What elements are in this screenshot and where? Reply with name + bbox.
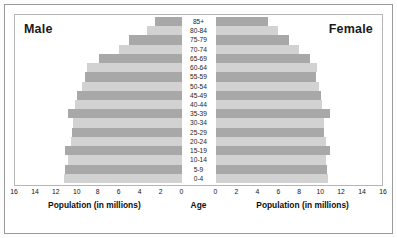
axis-captions: Population (in millions) Age Population … [14, 200, 383, 216]
male-bar [65, 165, 199, 174]
pyramid-row: 80-84 [15, 26, 382, 35]
pyramid-row: 10-14 [15, 155, 382, 164]
male-bar [72, 128, 198, 137]
x-tick-right: 14 [358, 188, 366, 195]
pyramid-row: 35-39 [15, 109, 382, 118]
x-tick-right: 2 [235, 188, 239, 195]
pyramid-row: 20-24 [15, 137, 382, 146]
pyramid-rows: 85+80-8475-7970-7465-6960-6455-5950-5445… [15, 17, 382, 183]
male-bar [73, 118, 198, 127]
x-tick-left: 14 [31, 188, 39, 195]
age-group-label: 40-44 [183, 100, 214, 109]
age-group-label: 45-49 [183, 91, 214, 100]
pyramid-row: 55-59 [15, 72, 382, 81]
pyramid-row: 70-74 [15, 45, 382, 54]
male-bar [68, 109, 198, 118]
pyramid-row: 25-29 [15, 128, 382, 137]
right-axis-caption: Population (in millions) [256, 200, 349, 210]
age-group-label: 80-84 [183, 26, 214, 35]
female-bar [199, 63, 318, 72]
age-group-label: 55-59 [183, 72, 214, 81]
x-tick-left: 6 [117, 188, 121, 195]
age-group-label: 20-24 [183, 137, 214, 146]
age-group-label: 30-34 [183, 118, 214, 127]
left-axis-caption: Population (in millions) [48, 200, 141, 210]
female-bar [199, 118, 324, 127]
male-bar [65, 146, 199, 155]
age-group-label: 15-19 [183, 146, 214, 155]
x-tick-left: 8 [96, 188, 100, 195]
male-bar [68, 155, 198, 164]
pyramid-row: 40-44 [15, 100, 382, 109]
pyramid-row: 15-19 [15, 146, 382, 155]
age-group-label: 5-9 [183, 165, 214, 174]
male-bar [64, 174, 199, 183]
age-group-label: 10-14 [183, 155, 214, 164]
center-axis-caption: Age [191, 200, 207, 210]
age-group-label: 60-64 [183, 63, 214, 72]
male-bar [77, 91, 198, 100]
age-group-label: 70-74 [183, 45, 214, 54]
pyramid-row: 75-79 [15, 35, 382, 44]
male-bar [75, 100, 198, 109]
female-bar [199, 146, 330, 155]
female-bar [199, 82, 319, 91]
age-group-label: 35-39 [183, 109, 214, 118]
x-tick-right: 8 [297, 188, 301, 195]
x-tick-right: 6 [276, 188, 280, 195]
pyramid-row: 45-49 [15, 91, 382, 100]
female-bar [199, 100, 322, 109]
age-group-label: 25-29 [183, 128, 214, 137]
x-tick-right: 16 [379, 188, 387, 195]
pyramid-row: 5-9 [15, 165, 382, 174]
male-bar [71, 137, 198, 146]
x-tick-left: 0 [180, 188, 184, 195]
age-group-label: 85+ [183, 17, 214, 26]
pyramid-row: 65-69 [15, 54, 382, 63]
x-tick-left: 10 [73, 188, 81, 195]
x-tick-right: 4 [255, 188, 259, 195]
pyramid-row: 30-34 [15, 118, 382, 127]
age-group-label: 0-4 [183, 174, 214, 183]
x-tick-left: 2 [159, 188, 163, 195]
female-bar [199, 174, 328, 183]
x-tick-right: 0 [214, 188, 218, 195]
pyramid-row: 85+ [15, 17, 382, 26]
x-tick-right: 12 [337, 188, 345, 195]
female-bar [199, 165, 327, 174]
pyramid-row: 0-4 [15, 174, 382, 183]
female-bar [199, 128, 324, 137]
x-axis-ticks: 16141210864200246810121416 [14, 188, 383, 200]
female-bar [199, 155, 326, 164]
x-tick-left: 12 [52, 188, 60, 195]
age-group-label: 65-69 [183, 54, 214, 63]
female-bar [199, 72, 317, 81]
female-bar [199, 109, 330, 118]
age-group-label: 50-54 [183, 82, 214, 91]
pyramid-row: 60-64 [15, 63, 382, 72]
x-tick-left: 16 [10, 188, 18, 195]
pyramid-row: 50-54 [15, 82, 382, 91]
population-pyramid-figure: Male Female 85+80-8475-7970-7465-6960-64… [0, 0, 397, 238]
female-bar [199, 91, 321, 100]
age-group-label: 75-79 [183, 35, 214, 44]
female-bar [199, 137, 326, 146]
x-tick-left: 4 [138, 188, 142, 195]
x-tick-right: 10 [316, 188, 324, 195]
